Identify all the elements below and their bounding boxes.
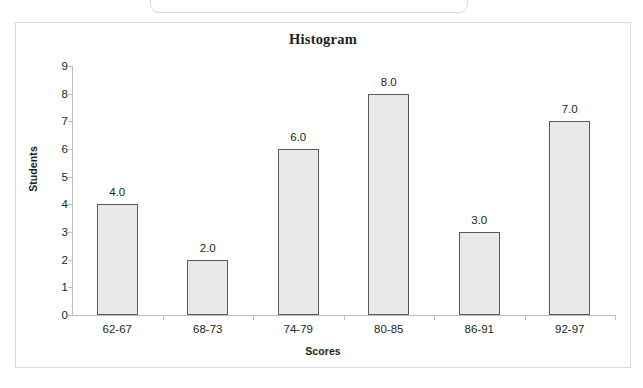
x-axis-tick-mark — [525, 315, 526, 320]
y-axis-tick-mark — [68, 204, 73, 205]
x-axis-tick-label: 86-91 — [444, 323, 514, 335]
x-axis-tick-mark — [253, 315, 254, 320]
x-axis-tick-mark — [344, 315, 345, 320]
y-axis-tick-label: 5 — [38, 171, 68, 183]
bar-value-label: 6.0 — [273, 131, 323, 143]
chart-title: Histogram — [16, 31, 630, 48]
x-axis-title: Scores — [16, 345, 630, 357]
histogram-bar — [549, 121, 590, 315]
y-axis-tick-label: 8 — [38, 88, 68, 100]
bar-value-label: 3.0 — [454, 214, 504, 226]
bar-value-label: 2.0 — [183, 242, 233, 254]
histogram-bar — [368, 94, 409, 315]
chart-container: Histogram Students 9876543210 4.02.06.08… — [15, 22, 631, 368]
y-axis-tick-mark — [68, 315, 73, 316]
y-axis-tick-mark — [68, 287, 73, 288]
y-axis-tick-label: 0 — [38, 309, 68, 321]
x-axis-tick-label: 74-79 — [263, 323, 333, 335]
y-axis-tick-mark — [68, 94, 73, 95]
y-axis-tick-mark — [68, 177, 73, 178]
histogram-bar — [97, 204, 138, 315]
y-axis-ticks: 9876543210 — [16, 23, 68, 369]
histogram-bar — [278, 149, 319, 315]
top-rounded-panel — [150, 0, 468, 13]
y-axis-tick-label: 3 — [38, 226, 68, 238]
x-axis-tick-mark — [434, 315, 435, 320]
y-axis-tick-mark — [68, 66, 73, 67]
bar-value-label: 7.0 — [545, 103, 595, 115]
x-axis-tick-mark — [163, 315, 164, 320]
y-axis-line — [72, 66, 73, 315]
x-axis-tick-label: 92-97 — [535, 323, 605, 335]
histogram-bar — [459, 232, 500, 315]
y-axis-tick-label: 7 — [38, 115, 68, 127]
y-axis-tick-mark — [68, 260, 73, 261]
histogram-bar — [187, 260, 228, 315]
screenshot-root: Histogram Students 9876543210 4.02.06.08… — [0, 0, 643, 388]
x-axis-tick-label: 68-73 — [173, 323, 243, 335]
bar-value-label: 8.0 — [364, 76, 414, 88]
y-axis-tick-label: 2 — [38, 254, 68, 266]
x-axis-tick-label: 62-67 — [82, 323, 152, 335]
bar-value-label: 4.0 — [92, 186, 142, 198]
y-axis-tick-label: 4 — [38, 198, 68, 210]
y-axis-tick-label: 6 — [38, 143, 68, 155]
x-axis-tick-mark — [615, 315, 616, 320]
x-axis-tick-label: 80-85 — [354, 323, 424, 335]
y-axis-tick-label: 1 — [38, 281, 68, 293]
y-axis-tick-label: 9 — [38, 60, 68, 72]
y-axis-tick-mark — [68, 121, 73, 122]
y-axis-tick-mark — [68, 232, 73, 233]
y-axis-tick-mark — [68, 149, 73, 150]
